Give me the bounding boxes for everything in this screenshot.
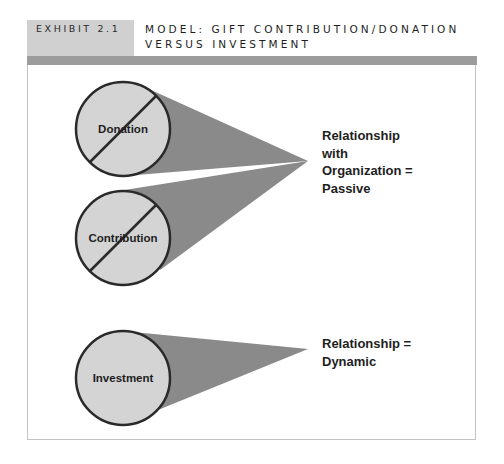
outcome-line: Relationship xyxy=(322,127,413,145)
donation-circle: Donation xyxy=(76,82,170,176)
investment-circle: Investment xyxy=(76,331,170,425)
outcome-line: with xyxy=(322,145,413,163)
contribution-circle: Contribution xyxy=(76,191,170,285)
outcome-line: Passive xyxy=(322,180,413,198)
outcome-line: Relationship = xyxy=(322,335,411,353)
outcome-line: Organization = xyxy=(322,162,413,180)
investment-label: Investment xyxy=(93,372,154,384)
passive-relationship-text: Relationship with Organization = Passive xyxy=(322,127,413,197)
donation-label: Donation xyxy=(98,123,148,135)
contribution-label: Contribution xyxy=(89,232,158,244)
dynamic-relationship-text: Relationship = Dynamic xyxy=(322,335,411,370)
diagram-canvas: Donation Contribution Investment xyxy=(0,0,504,464)
outcome-line: Dynamic xyxy=(322,353,411,371)
